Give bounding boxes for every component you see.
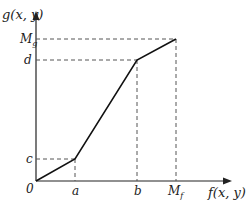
tick-d: d — [24, 53, 32, 67]
tick-a: a — [72, 184, 79, 198]
x-axis-arrow-icon — [223, 178, 232, 185]
piecewise-linear-diagram: g(x, y) f(x, y) 0 c d Mg a b Mf — [0, 0, 247, 206]
origin-label: 0 — [26, 182, 34, 196]
tick-c: c — [26, 152, 33, 166]
tick-b: b — [134, 184, 142, 198]
x-axis-label: f(x, y) — [207, 185, 246, 200]
tick-mf: Mf — [167, 184, 185, 200]
tick-mg: Mg — [19, 32, 37, 48]
y-axis-label: g(x, y) — [2, 7, 43, 22]
